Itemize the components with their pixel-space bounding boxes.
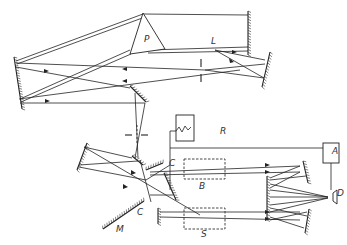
source-mirror [262, 52, 273, 89]
light-ray [270, 198, 328, 205]
label-R: R [220, 126, 226, 136]
spectrophotometer-diagram: PLRCCBSADM [0, 0, 347, 245]
light-ray [270, 176, 306, 180]
recorder-R [170, 115, 194, 190]
diagram-canvas: PLRCCBSADM [0, 0, 347, 245]
mirrors [14, 11, 312, 235]
light-ray [16, 63, 205, 70]
light-ray [16, 14, 143, 61]
label-M: M [116, 224, 124, 234]
light-ray [205, 70, 264, 78]
recombine-mid [267, 176, 270, 222]
light-ray [84, 147, 200, 215]
light-ray [270, 184, 328, 197]
light-ray [270, 212, 307, 220]
label-S: S [201, 229, 207, 239]
recombine-bottom [305, 209, 312, 235]
light-ray [84, 147, 132, 158]
light-ray [79, 167, 146, 180]
light-ray [143, 14, 248, 15]
light-ray [17, 17, 145, 64]
label-C2: C [137, 207, 144, 217]
diag-mirror-right [164, 173, 179, 200]
light-rays [16, 14, 328, 228]
component-labels: PLRCCBSADM [116, 34, 344, 239]
label-C1: C [169, 158, 176, 168]
littrow-mirror [248, 11, 251, 57]
light-ray [16, 67, 130, 88]
fold-mirror-2 [132, 155, 146, 165]
left-collimator-mirror [14, 57, 25, 110]
label-A: A [331, 146, 338, 156]
light-ray [270, 172, 300, 188]
label-L: L [211, 36, 216, 46]
label-P: P [144, 34, 150, 44]
light-ray [215, 50, 264, 78]
label-B: B [199, 181, 205, 191]
beam-splitter-mirror [146, 160, 163, 170]
fold-mirror-1 [130, 85, 149, 102]
label-D: D [337, 188, 344, 198]
recombine-top [303, 161, 311, 184]
light-ray [270, 190, 328, 197]
light-ray [205, 64, 265, 70]
